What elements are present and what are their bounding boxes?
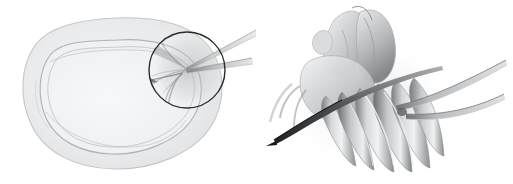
- medical-illustration-figure: [0, 0, 513, 184]
- detail-panel: [256, 0, 513, 184]
- overview-panel: [0, 0, 256, 184]
